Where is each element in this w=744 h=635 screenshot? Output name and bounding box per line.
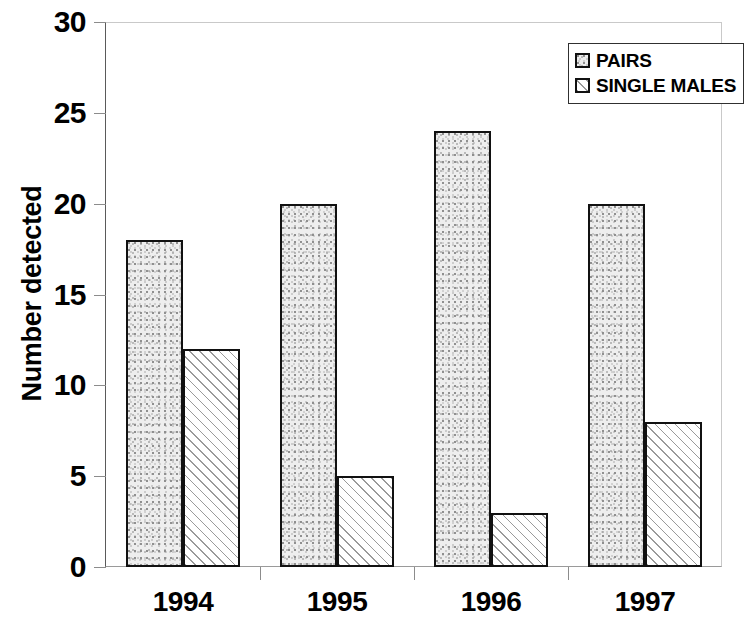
bar-fill xyxy=(590,206,643,565)
bar-single-males-1995 xyxy=(337,476,394,567)
bar-pairs-1996 xyxy=(434,131,491,567)
x-axis-label-1994: 1994 xyxy=(106,588,260,616)
legend-item-single-males: SINGLE MALES xyxy=(575,73,736,98)
y-axis-tick xyxy=(94,113,106,114)
y-axis-tick xyxy=(94,295,106,296)
legend-swatch-single-males xyxy=(575,78,590,93)
y-axis-tick-label: 25 xyxy=(34,98,86,128)
bar-fill xyxy=(128,242,181,565)
bar-single-males-1994 xyxy=(183,349,240,567)
y-axis-tick-label: 10 xyxy=(34,370,86,400)
bar-fill xyxy=(185,351,238,565)
legend: PAIRS SINGLE MALES xyxy=(568,43,744,104)
bar-pairs-1997 xyxy=(588,204,645,567)
bar-fill xyxy=(493,515,546,566)
bar-single-males-1997 xyxy=(645,422,702,567)
x-axis-tick xyxy=(568,567,569,580)
x-axis-tick xyxy=(414,567,415,580)
x-axis-label-1997: 1997 xyxy=(568,588,722,616)
legend-label-single-males: SINGLE MALES xyxy=(596,76,736,95)
x-axis-tick xyxy=(260,567,261,580)
y-axis-tick xyxy=(94,385,106,386)
bar-fill xyxy=(339,478,392,565)
bar-pairs-1994 xyxy=(126,240,183,567)
y-axis-tick-label: 5 xyxy=(34,461,86,491)
y-axis-tick xyxy=(94,204,106,205)
y-axis-tick xyxy=(94,567,106,568)
legend-label-pairs: PAIRS xyxy=(596,51,652,70)
x-axis-label-1996: 1996 xyxy=(414,588,568,616)
bar-pairs-1995 xyxy=(280,204,337,567)
y-axis-tick-label: 30 xyxy=(34,7,86,37)
bar-fill xyxy=(282,206,335,565)
bar-fill xyxy=(647,424,700,565)
y-axis-tick-label: 0 xyxy=(34,552,86,582)
bar-fill xyxy=(436,133,489,565)
y-axis-tick-label: 20 xyxy=(34,189,86,219)
bar-single-males-1996 xyxy=(491,513,548,568)
legend-swatch-pairs xyxy=(575,53,590,68)
y-axis-tick xyxy=(94,476,106,477)
x-axis-label-1995: 1995 xyxy=(260,588,414,616)
y-axis-tick-label: 15 xyxy=(34,280,86,310)
y-axis-tick xyxy=(94,22,106,23)
legend-item-pairs: PAIRS xyxy=(575,48,736,73)
